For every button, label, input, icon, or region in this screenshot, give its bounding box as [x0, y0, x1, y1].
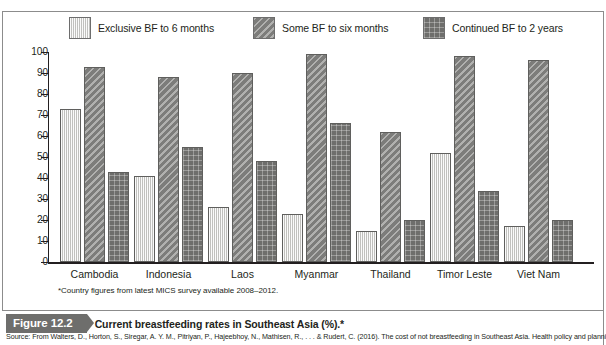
legend-swatch-some-icon	[253, 17, 275, 39]
y-tick-label: 0	[14, 256, 48, 267]
figure-caption-row: Figure 12.2 Current breastfeeding rates …	[6, 314, 344, 333]
y-tick-label: 100	[14, 46, 48, 57]
bar	[158, 77, 179, 262]
frame-border-right	[603, 11, 604, 345]
legend-swatch-exclusive-icon	[69, 17, 91, 39]
legend-label-exclusive: Exclusive BF to 6 months	[98, 22, 214, 34]
legend-item-exclusive: Exclusive BF to 6 months	[69, 17, 214, 39]
bar	[528, 60, 549, 262]
bar	[478, 191, 499, 262]
figure-number-badge: Figure 12.2	[6, 314, 87, 333]
bar-group	[208, 52, 277, 262]
y-tick-label: 40	[14, 172, 48, 183]
bar	[108, 172, 129, 262]
frame-border-bottom	[2, 310, 604, 311]
x-axis-category-label: Cambodia	[52, 268, 137, 280]
bar	[84, 67, 105, 262]
legend-item-some: Some BF to six months	[253, 17, 388, 39]
bar	[404, 220, 425, 262]
bar	[504, 226, 525, 262]
x-axis-category-label: Timor Leste	[422, 268, 507, 280]
y-tick-label: 90	[14, 67, 48, 78]
chart-footnote: *Country figures from latest MICS survey…	[58, 286, 278, 295]
y-tick-label: 30	[14, 193, 48, 204]
bar	[182, 147, 203, 263]
x-axis-category-label: Myanmar	[274, 268, 359, 280]
bar	[454, 56, 475, 262]
bar	[356, 231, 377, 263]
bar	[232, 73, 253, 262]
x-axis-category-label: Viet Nam	[496, 268, 581, 280]
legend-swatch-continued-icon	[423, 17, 445, 39]
bar	[430, 153, 451, 262]
x-axis-category-label: Indonesia	[126, 268, 211, 280]
bar	[306, 54, 327, 262]
y-axis: 0102030405060708090100	[0, 52, 48, 263]
bar-group	[356, 52, 425, 262]
figure-container: Exclusive BF to 6 months Some BF to six …	[0, 0, 606, 345]
bar	[208, 207, 229, 262]
legend-label-continued: Continued BF to 2 years	[452, 22, 563, 34]
y-tick-label: 10	[14, 235, 48, 246]
bar-group	[134, 52, 203, 262]
bar	[256, 161, 277, 262]
bar-group	[282, 52, 351, 262]
bar-group	[504, 52, 573, 262]
y-tick-label: 60	[14, 130, 48, 141]
legend-item-continued: Continued BF to 2 years	[423, 17, 563, 39]
bar-group	[60, 52, 129, 262]
x-axis-category-label: Laos	[200, 268, 285, 280]
y-tick-label: 50	[14, 151, 48, 162]
figure-caption-text: Current breastfeeding rates in Southeast…	[95, 318, 345, 330]
bar-group	[430, 52, 499, 262]
x-axis-line	[48, 262, 594, 264]
bar	[330, 123, 351, 262]
chart-legend: Exclusive BF to 6 months Some BF to six …	[0, 16, 606, 42]
bar	[552, 220, 573, 262]
plot-area	[48, 52, 590, 262]
bar	[380, 132, 401, 262]
bar	[60, 109, 81, 262]
figure-source-line: Source: From Walters, D., Horton, S., Si…	[6, 332, 600, 341]
y-tick-label: 70	[14, 109, 48, 120]
y-tick-label: 20	[14, 214, 48, 225]
x-axis-category-label: Thailand	[348, 268, 433, 280]
bar	[134, 176, 155, 262]
y-tick-label: 80	[14, 88, 48, 99]
legend-label-some: Some BF to six months	[282, 22, 388, 34]
frame-border-top	[2, 11, 604, 12]
bar	[282, 214, 303, 262]
